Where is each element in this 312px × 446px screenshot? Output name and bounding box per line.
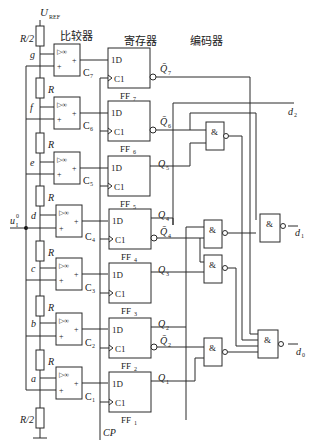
svg-text:2: 2 — [134, 366, 137, 372]
uref-sub: REF — [49, 14, 61, 20]
svg-text:+: + — [59, 386, 64, 395]
svg-text:▷∞: ▷∞ — [59, 317, 69, 325]
svg-text:+: + — [59, 332, 64, 341]
svg-text:&: & — [264, 335, 271, 345]
svg-text:b: b — [31, 318, 36, 329]
svg-text:C1: C1 — [115, 289, 126, 299]
svg-text:1D: 1D — [112, 325, 124, 335]
svg-text:▷∞: ▷∞ — [59, 209, 69, 217]
svg-text:0: 0 — [302, 352, 305, 358]
svg-text:R/2: R/2 — [19, 414, 34, 425]
svg-text:1: 1 — [134, 420, 137, 426]
svg-text:Q̄: Q̄ — [160, 63, 168, 74]
svg-text:+: + — [59, 224, 64, 233]
svg-text:Q̄: Q̄ — [160, 335, 168, 346]
svg-text:R: R — [47, 247, 54, 258]
comparator-title: 比较器 — [60, 29, 93, 43]
svg-text:0: 0 — [16, 213, 19, 219]
svg-text:1: 1 — [301, 233, 304, 239]
svg-text:C: C — [85, 391, 92, 402]
svg-text:d: d — [31, 210, 37, 221]
svg-text:g: g — [30, 49, 35, 60]
svg-text:C1: C1 — [114, 74, 125, 84]
svg-text:1D: 1D — [111, 163, 123, 173]
svg-text:&: & — [211, 127, 218, 137]
svg-text:7: 7 — [133, 96, 136, 102]
svg-text:R/2: R/2 — [19, 33, 34, 44]
svg-text:R: R — [47, 139, 54, 150]
svg-text:+: + — [72, 164, 77, 173]
svg-text:Q̄: Q̄ — [160, 226, 168, 237]
svg-text:FF: FF — [120, 199, 130, 209]
svg-text:1D: 1D — [111, 55, 123, 65]
svg-text:f: f — [30, 102, 34, 113]
svg-text:C1: C1 — [115, 398, 126, 408]
svg-text:5: 5 — [133, 204, 136, 210]
svg-text:▷∞: ▷∞ — [57, 101, 67, 109]
svg-text:3: 3 — [92, 288, 95, 294]
resistor-bottom — [36, 408, 44, 428]
svg-text:+: + — [74, 379, 79, 388]
svg-text:C: C — [85, 231, 92, 242]
svg-text:6: 6 — [133, 149, 136, 155]
svg-text:FF: FF — [121, 361, 131, 371]
svg-text:+: + — [74, 217, 79, 226]
svg-text:a: a — [31, 373, 36, 384]
svg-text:+: + — [74, 325, 79, 334]
svg-text:C1: C1 — [114, 182, 125, 192]
svg-text:FF: FF — [120, 91, 130, 101]
svg-text:3: 3 — [134, 311, 137, 317]
register-title: 寄存器 — [124, 34, 157, 48]
svg-text:&: & — [266, 219, 273, 229]
svg-text:Q: Q — [158, 264, 166, 275]
svg-text:▷∞: ▷∞ — [57, 48, 67, 56]
svg-text:1: 1 — [166, 379, 169, 385]
svg-text:FF: FF — [121, 415, 131, 425]
svg-text:&: & — [209, 260, 216, 270]
and-gates — [204, 122, 286, 366]
svg-text:FF: FF — [120, 144, 130, 154]
svg-text:&: & — [209, 343, 216, 353]
svg-text:6: 6 — [90, 126, 93, 132]
svg-text:1D: 1D — [112, 216, 124, 226]
svg-text:C: C — [85, 337, 92, 348]
svg-text:+: + — [57, 115, 62, 124]
svg-text:C1: C1 — [114, 127, 125, 137]
svg-text:4: 4 — [134, 257, 137, 263]
svg-text:Q̄: Q̄ — [160, 116, 168, 127]
svg-text:e: e — [30, 157, 35, 168]
svg-text:FF: FF — [121, 306, 131, 316]
svg-text:6: 6 — [168, 123, 171, 129]
svg-text:1D: 1D — [111, 108, 123, 118]
svg-text:+: + — [59, 276, 64, 285]
svg-text:+: + — [57, 62, 62, 71]
svg-text:C1: C1 — [115, 344, 126, 354]
svg-text:R: R — [47, 84, 54, 95]
flipflops — [100, 48, 151, 412]
svg-text:R: R — [47, 192, 54, 203]
svg-text:c: c — [31, 263, 36, 274]
svg-text:u: u — [10, 215, 15, 226]
svg-text:+: + — [72, 56, 77, 65]
svg-text:C: C — [85, 282, 92, 293]
svg-text:C: C — [83, 67, 90, 78]
parallel-adc-schematic: 比较器 寄存器 编码器 U REF R/2 R R R R R R R/2 u … — [0, 0, 312, 446]
svg-text:7: 7 — [90, 73, 93, 79]
svg-text:4: 4 — [166, 216, 169, 222]
encoder-title: 编码器 — [190, 34, 223, 48]
svg-text:+: + — [57, 170, 62, 179]
svg-text:▷∞: ▷∞ — [57, 156, 67, 164]
svg-text:2: 2 — [166, 325, 169, 331]
svg-text:4: 4 — [92, 237, 95, 243]
svg-text:+: + — [72, 109, 77, 118]
svg-text:5: 5 — [90, 181, 93, 187]
svg-text:1D: 1D — [112, 270, 124, 280]
svg-text:R: R — [47, 356, 54, 367]
svg-text:C: C — [83, 175, 90, 186]
svg-text:▷∞: ▷∞ — [59, 371, 69, 379]
uref-label: U — [40, 6, 49, 18]
svg-text:1D: 1D — [112, 379, 124, 389]
resistor-top — [36, 26, 44, 46]
svg-text:R: R — [47, 302, 54, 313]
svg-text:1: 1 — [92, 397, 95, 403]
